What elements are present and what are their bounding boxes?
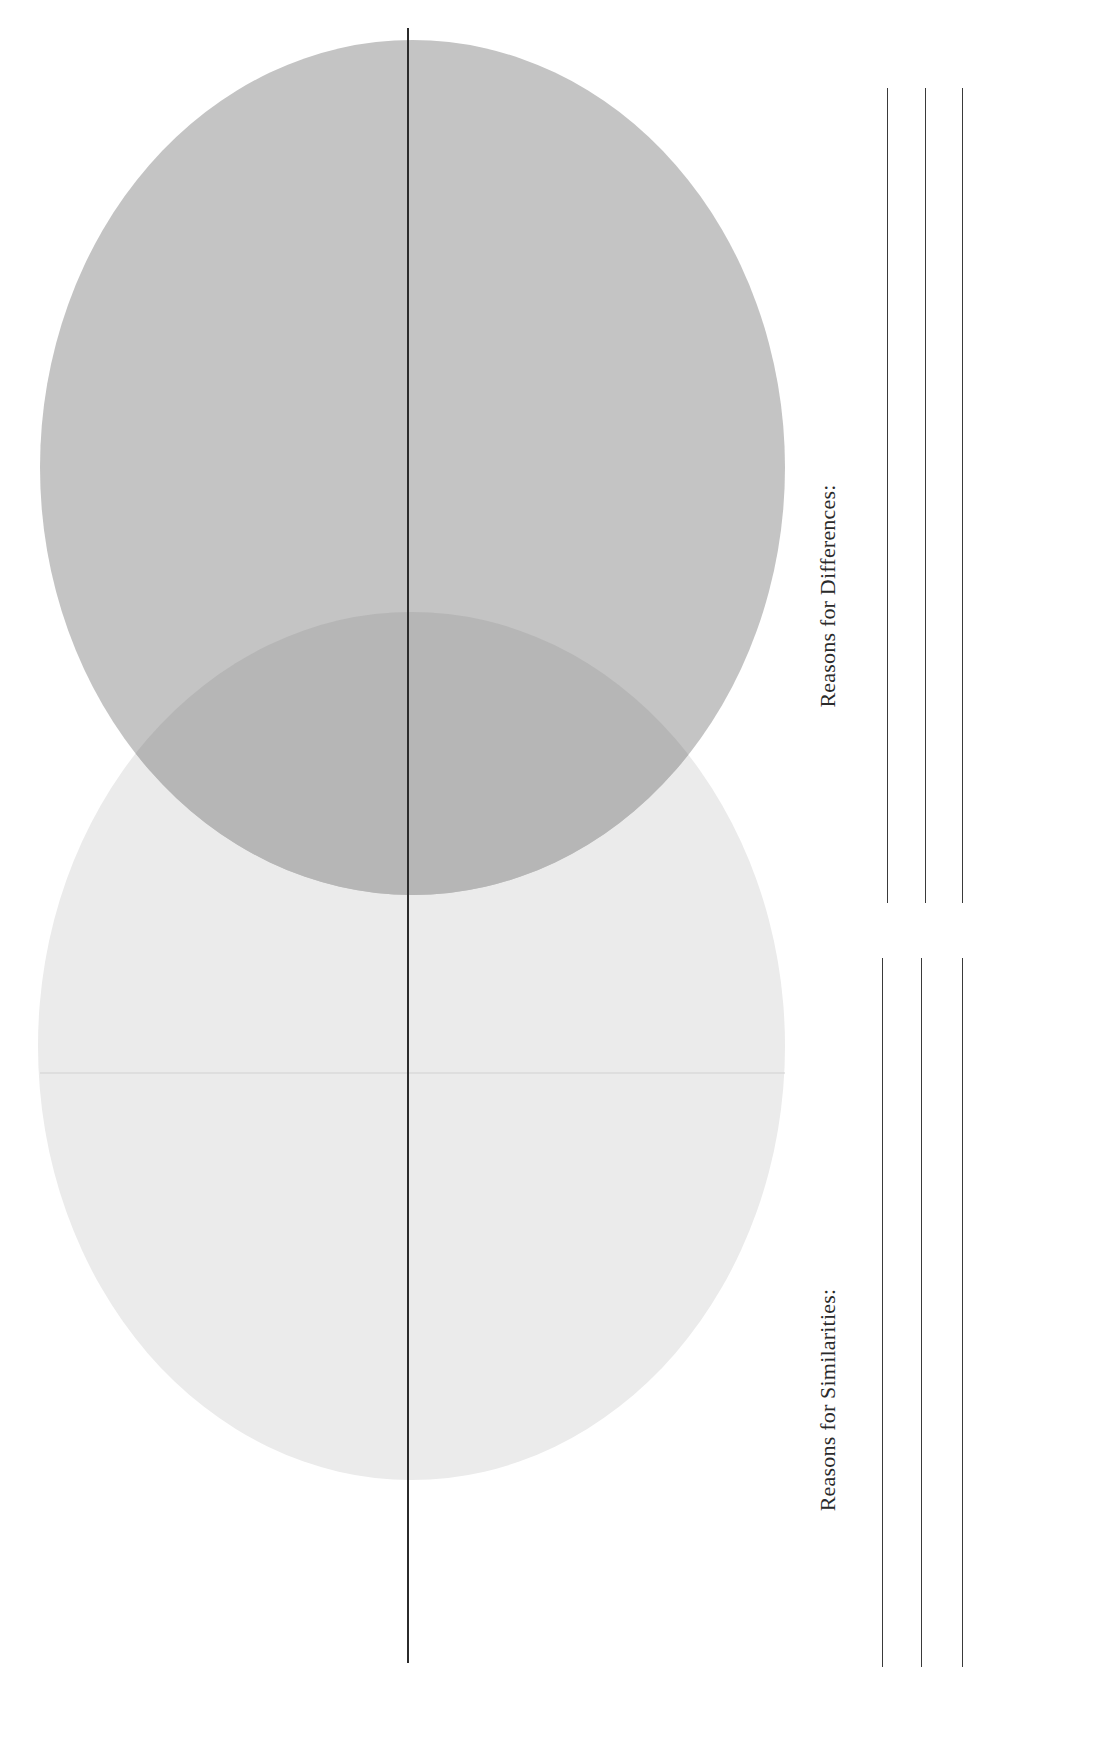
similarities-answer-line-3[interactable] — [962, 958, 963, 1667]
differences-label: Reasons for Differences: — [815, 484, 841, 707]
similarities-answer-line-2[interactable] — [921, 958, 922, 1667]
differences-answer-line-2[interactable] — [925, 88, 926, 903]
venn-diagram — [0, 0, 1120, 1742]
similarities-answer-line-1[interactable] — [882, 958, 883, 1667]
differences-answer-line-3[interactable] — [962, 88, 963, 903]
similarities-label: Reasons for Similarities: — [815, 1289, 841, 1512]
differences-answer-line-1[interactable] — [887, 88, 888, 903]
